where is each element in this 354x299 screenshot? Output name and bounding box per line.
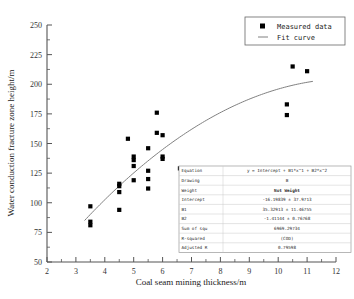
stats-row-label: Drawing bbox=[182, 178, 201, 183]
x-tick-label: 2 bbox=[45, 267, 49, 276]
data-point-marker bbox=[146, 177, 150, 181]
stats-row-label: Weight bbox=[182, 188, 198, 193]
data-point-marker bbox=[285, 102, 289, 106]
x-tick-label: 3 bbox=[74, 267, 78, 276]
y-tick-label: 200 bbox=[30, 80, 42, 89]
data-point-marker bbox=[132, 178, 136, 182]
x-axis-title: Coal seam mining thickness/m bbox=[136, 277, 247, 287]
data-point-marker bbox=[146, 146, 150, 150]
y-tick-label: 100 bbox=[30, 199, 42, 208]
legend-marker-square-icon bbox=[260, 24, 265, 29]
data-point-marker bbox=[117, 208, 121, 212]
stats-row-value: 6969.29734 bbox=[274, 226, 300, 231]
stats-row-label: R-squared bbox=[182, 236, 206, 241]
data-point-marker bbox=[132, 164, 136, 168]
data-point-marker bbox=[155, 111, 159, 115]
y-tick-label: 225 bbox=[30, 51, 42, 60]
legend: Measured data Fit curve bbox=[245, 17, 345, 45]
x-tick-label: 9 bbox=[247, 267, 251, 276]
data-point-marker bbox=[117, 190, 121, 194]
y-tick-label: 75 bbox=[34, 228, 42, 237]
stats-row-label: Sum of squ bbox=[182, 226, 208, 231]
data-point-marker bbox=[146, 169, 150, 173]
data-point-marker bbox=[88, 204, 92, 208]
stats-row-value: 35.32913 ± 11.46755 bbox=[262, 207, 312, 212]
chart-figure: 23456789101112 5075100125150175200225250… bbox=[0, 0, 354, 299]
stats-row-value: y = Intercept + B1*x^1 + B2*x^2 bbox=[247, 168, 328, 173]
stats-row-label: Equation bbox=[182, 168, 203, 173]
data-point-marker bbox=[291, 64, 295, 68]
y-tick-label: 150 bbox=[30, 140, 42, 149]
data-point-marker bbox=[146, 186, 150, 190]
x-tick-label: 4 bbox=[103, 267, 107, 276]
data-point-marker bbox=[126, 137, 130, 141]
x-tick-label: 6 bbox=[161, 267, 165, 276]
data-point-marker bbox=[305, 69, 309, 73]
data-point-marker bbox=[161, 133, 165, 137]
stats-row-value: B bbox=[286, 178, 289, 183]
x-tick-label: 5 bbox=[132, 267, 136, 276]
data-point-marker bbox=[117, 184, 121, 188]
stats-row-label: B1 bbox=[182, 207, 188, 212]
stats-row-value: Not Weight bbox=[274, 188, 300, 193]
stats-row-label: B2 bbox=[182, 216, 188, 221]
stats-row-value: -1.41144 ± 0.76768 bbox=[264, 216, 311, 221]
data-point-marker bbox=[155, 131, 159, 135]
y-tick-label: 175 bbox=[30, 110, 42, 119]
legend-label-measured-data: Measured data bbox=[277, 23, 332, 31]
y-tick-label: 250 bbox=[30, 21, 42, 30]
legend-label-fit-curve: Fit curve bbox=[277, 34, 315, 42]
stats-row-label: Intercept bbox=[182, 197, 206, 202]
y-tick-label: 125 bbox=[30, 169, 42, 178]
x-tick-label: 12 bbox=[332, 267, 340, 276]
y-axis-title: Water conduction fracture zone height/m bbox=[6, 69, 16, 216]
data-point-marker bbox=[88, 223, 92, 227]
stats-row-value: 0.79598 bbox=[278, 245, 297, 250]
stats-row-value: (COD) bbox=[281, 236, 294, 241]
stats-row-label: Adjusted R bbox=[182, 245, 208, 250]
y-tick-label: 50 bbox=[34, 258, 42, 267]
x-tick-label: 11 bbox=[303, 267, 311, 276]
data-point-marker bbox=[132, 158, 136, 162]
x-tick-label: 8 bbox=[218, 267, 222, 276]
stats-table: Equationy = Intercept + B1*x^1 + B2*x^2D… bbox=[179, 166, 351, 252]
stats-row-value: -16.19839 ± 37.9713 bbox=[262, 197, 312, 202]
data-point-marker bbox=[161, 157, 165, 161]
data-point-marker bbox=[285, 113, 289, 117]
x-tick-label: 10 bbox=[274, 267, 282, 276]
x-tick-label: 7 bbox=[190, 267, 194, 276]
